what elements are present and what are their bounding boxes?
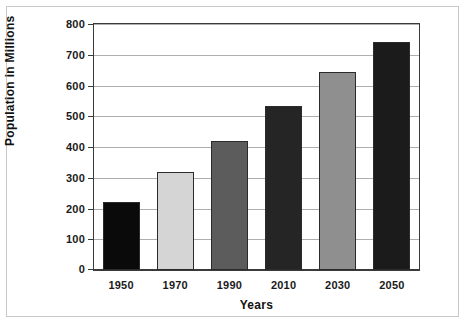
y-tick-300 bbox=[88, 178, 94, 179]
y-tick-label-500: 500 bbox=[66, 110, 85, 122]
x-tick-label-1990: 1990 bbox=[217, 279, 242, 291]
y-axis-title: Population in Millions bbox=[3, 15, 17, 146]
gridline-0 bbox=[94, 269, 419, 270]
bar-2030 bbox=[319, 72, 356, 270]
bar-2010 bbox=[265, 106, 302, 271]
y-tick-0 bbox=[88, 269, 94, 270]
chart-figure: Population in Millions 01002003004005006… bbox=[6, 6, 459, 317]
y-tick-200 bbox=[88, 209, 94, 210]
gridline-700 bbox=[94, 55, 419, 56]
plot-area: 0100200300400500600700800 bbox=[93, 23, 420, 271]
bar-2050 bbox=[373, 42, 410, 270]
gridline-300 bbox=[94, 178, 419, 179]
y-tick-500 bbox=[88, 116, 94, 117]
y-tick-label-800: 800 bbox=[66, 18, 85, 30]
y-tick-400 bbox=[88, 147, 94, 148]
y-tick-label-100: 100 bbox=[66, 233, 85, 245]
y-tick-600 bbox=[88, 86, 94, 87]
gridline-600 bbox=[94, 86, 419, 87]
y-tick-100 bbox=[88, 239, 94, 240]
x-tick-label-2010: 2010 bbox=[271, 279, 296, 291]
gridline-500 bbox=[94, 116, 419, 117]
x-axis-title: Years bbox=[93, 298, 420, 312]
y-tick-label-0: 0 bbox=[79, 263, 85, 275]
x-tick-label-1970: 1970 bbox=[163, 279, 188, 291]
y-tick-label-300: 300 bbox=[66, 172, 85, 184]
y-tick-700 bbox=[88, 55, 94, 56]
gridline-800 bbox=[94, 24, 419, 25]
x-tick-label-2030: 2030 bbox=[325, 279, 350, 291]
bar-1950 bbox=[103, 202, 140, 270]
x-tick-label-1950: 1950 bbox=[108, 279, 133, 291]
gridline-100 bbox=[94, 239, 419, 240]
y-tick-800 bbox=[88, 24, 94, 25]
x-tick-label-2050: 2050 bbox=[379, 279, 404, 291]
y-tick-label-700: 700 bbox=[66, 49, 85, 61]
bar-1970 bbox=[157, 172, 194, 270]
y-tick-label-400: 400 bbox=[66, 141, 85, 153]
y-tick-label-200: 200 bbox=[66, 203, 85, 215]
gridline-400 bbox=[94, 147, 419, 148]
y-tick-label-600: 600 bbox=[66, 80, 85, 92]
bar-1990 bbox=[211, 141, 248, 270]
gridline-200 bbox=[94, 209, 419, 210]
